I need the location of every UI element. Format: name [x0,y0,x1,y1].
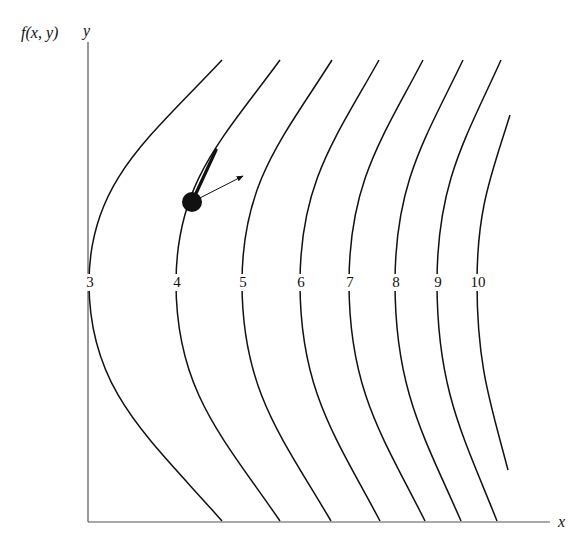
level-curve-7 [349,60,425,521]
level-label-4: 4 [173,274,181,291]
level-label-3: 3 [86,274,94,291]
level-label-8: 8 [392,274,400,291]
level-label-9: 9 [434,274,442,291]
level-curve-9 [437,60,501,521]
level-curve-8 [395,60,463,521]
point-marker [182,192,202,212]
level-label-6: 6 [297,274,305,291]
level-curve-4 [176,60,280,521]
level-curve-5 [242,60,332,521]
contour-figure: f(x, y) y x 345678910 [0,0,585,546]
function-label: f(x, y) [21,24,58,42]
contour-plot [0,0,585,546]
level-curve-6 [300,60,380,521]
level-label-5: 5 [239,274,247,291]
level-label-10: 10 [471,274,486,291]
y-axis-label: y [83,22,90,40]
level-curve-10 [477,115,510,470]
level-curve-3 [89,60,222,521]
level-label-7: 7 [346,274,354,291]
x-axis-label: x [558,513,565,531]
